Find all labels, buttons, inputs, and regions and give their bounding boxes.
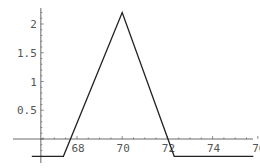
ticks <box>41 13 258 157</box>
axes <box>13 8 253 163</box>
y-tick-label: 0.5 <box>17 104 37 117</box>
y-tick-label: 1 <box>30 76 37 89</box>
x-tick-label: 68 <box>71 142 84 155</box>
data-line <box>32 13 254 157</box>
y-tick-label: 2 <box>30 18 37 31</box>
y-tick-label: 1.5 <box>17 47 37 60</box>
tick-labels: 68707274760.511.52 <box>17 18 260 155</box>
x-tick-label: 76 <box>252 142 260 155</box>
x-tick-label: 70 <box>117 142 130 155</box>
x-tick-label: 74 <box>207 142 221 155</box>
line-chart: 68707274760.511.52 <box>0 0 260 168</box>
